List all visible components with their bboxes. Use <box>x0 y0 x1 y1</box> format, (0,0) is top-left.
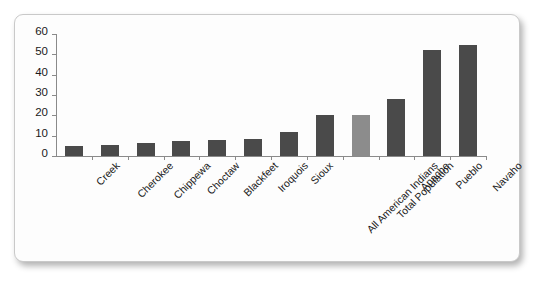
x-axis-label: Navaho <box>491 160 524 193</box>
y-tick-label: 20 <box>35 107 48 119</box>
plot-area: 0102030405060 <box>56 34 486 156</box>
y-tick-label: 40 <box>35 67 48 79</box>
x-axis-label: All American Indians <box>365 160 440 235</box>
x-axis-label: Creek <box>94 160 121 187</box>
bar <box>172 141 190 156</box>
bar <box>101 145 119 156</box>
bar <box>208 140 226 156</box>
y-tick: 60 <box>52 34 56 35</box>
y-tick-label: 30 <box>35 87 48 99</box>
y-axis-line <box>56 34 57 156</box>
x-axis-label: Blackfeet <box>242 160 280 198</box>
bar <box>459 45 477 156</box>
x-axis-label: Cherokee <box>135 160 175 200</box>
y-tick: 20 <box>52 115 56 116</box>
chart-card: 0102030405060 CreekCherokeeChippewaChoct… <box>14 14 520 262</box>
x-axis-labels: CreekCherokeeChippewaChoctawBlackfeetIro… <box>56 156 486 256</box>
x-tick <box>486 156 487 160</box>
y-tick-label: 50 <box>35 46 48 58</box>
bar <box>387 99 405 156</box>
x-axis-label: Chippewa <box>171 160 211 200</box>
chart-page: 0102030405060 CreekCherokeeChippewaChoct… <box>0 0 558 296</box>
x-axis-label: Pueblo <box>454 160 485 191</box>
bar <box>65 146 83 156</box>
y-tick: 10 <box>52 136 56 137</box>
y-tick-label: 60 <box>35 26 48 38</box>
bar <box>244 139 262 156</box>
bar <box>352 115 370 156</box>
bar <box>316 115 334 156</box>
bar <box>137 143 155 156</box>
x-axis-label: Sioux <box>309 160 335 186</box>
bar <box>280 132 298 156</box>
y-tick: 50 <box>52 54 56 55</box>
y-tick-label: 10 <box>35 128 48 140</box>
bar <box>423 50 441 156</box>
y-tick: 40 <box>52 75 56 76</box>
y-tick: 30 <box>52 95 56 96</box>
x-axis-label: Iroquois <box>276 160 310 194</box>
y-tick-label: 0 <box>42 148 48 160</box>
